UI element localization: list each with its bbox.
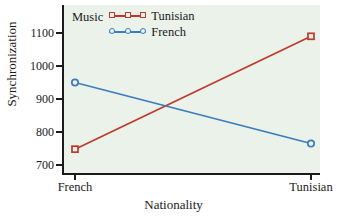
legend-marker-square <box>125 12 131 18</box>
marker-circle <box>308 140 314 146</box>
legend-entries: TunisianFrench <box>109 9 194 39</box>
legend-key-icon <box>109 10 146 22</box>
marker-square <box>308 33 314 39</box>
legend-item-tunisian[interactable]: Tunisian <box>109 9 194 23</box>
legend-marker-circle <box>125 28 131 34</box>
legend-label: Tunisian <box>151 10 194 23</box>
series-french <box>72 79 314 146</box>
y-axis-label: Synchronization <box>4 4 20 124</box>
legend-marker-circle <box>109 28 115 34</box>
legend: Music TunisianFrench <box>72 9 195 39</box>
marker-circle <box>72 79 78 85</box>
legend-marker-circle <box>140 28 146 34</box>
legend-marker-square <box>140 12 146 18</box>
legend-marker-square <box>109 12 115 18</box>
chart-figure: 70080090010001100 FrenchTunisian Synchro… <box>0 0 347 217</box>
series-line <box>75 83 311 144</box>
series-line <box>75 36 311 149</box>
x-axis-label: Nationality <box>0 197 347 213</box>
legend-label: French <box>151 26 186 39</box>
legend-item-french[interactable]: French <box>109 25 194 39</box>
marker-square <box>72 146 78 152</box>
legend-title: Music <box>72 9 103 24</box>
legend-key-icon <box>109 26 146 38</box>
